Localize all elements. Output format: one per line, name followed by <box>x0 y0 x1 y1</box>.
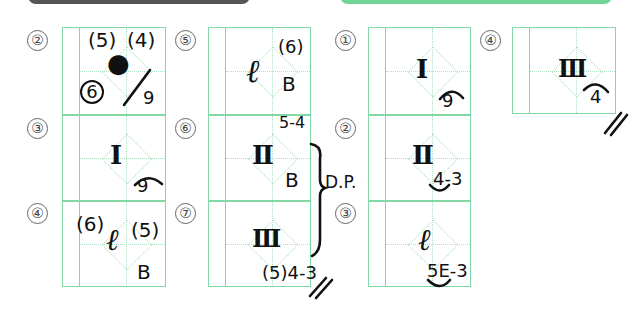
under-arc <box>428 280 450 286</box>
under-arc <box>430 185 449 191</box>
double-bar-mark <box>316 280 332 298</box>
handwritten-strokes <box>0 0 642 321</box>
fermata-arc <box>584 84 608 92</box>
double-bar-mark <box>310 278 326 296</box>
slash-mark <box>124 70 150 105</box>
brace <box>311 144 325 256</box>
fermata-arc <box>135 178 162 185</box>
double-bar-mark <box>605 113 621 133</box>
fermata-arc <box>440 92 463 99</box>
double-bar-mark <box>611 115 627 135</box>
